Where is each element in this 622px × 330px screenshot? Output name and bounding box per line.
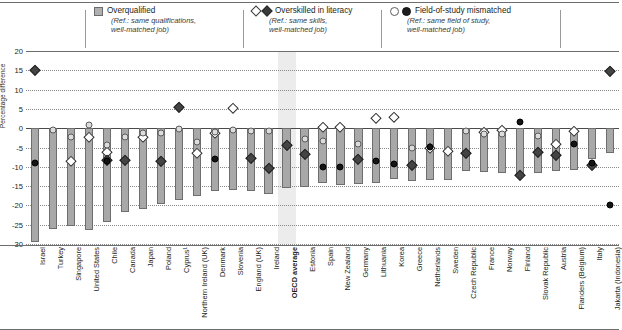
legend-item-overqualified[interactable]: Overqualified (Ref.: same qualifications… bbox=[94, 6, 196, 48]
legend-item-overskilled[interactable]: Overskilled in literacy (Ref.: same skil… bbox=[252, 6, 352, 48]
x-tick-label-korea: Korea bbox=[397, 247, 406, 267]
plot-area bbox=[26, 51, 619, 244]
marker-circle-open-poland bbox=[157, 130, 164, 137]
marker-circle-filled-chile bbox=[103, 158, 110, 165]
marker-circle-open-turkey bbox=[49, 127, 56, 134]
legend-marks-field-of-study bbox=[390, 6, 411, 16]
bar-ireland bbox=[264, 128, 272, 194]
marker-circle-filled-netherlands bbox=[427, 143, 434, 150]
y-tick-label: 20 bbox=[15, 47, 23, 56]
x-tick-label-ireland: Ireland bbox=[272, 247, 281, 270]
x-tick-label-slovenia: Slovenia bbox=[236, 247, 245, 275]
marker-circle-open-slovak-republic bbox=[535, 132, 542, 139]
legend-divider-2 bbox=[243, 10, 244, 48]
x-tick-label-oecd-average: OECD average bbox=[290, 247, 299, 298]
legend-divider-1 bbox=[85, 10, 86, 48]
marker-circle-open-france bbox=[481, 130, 488, 137]
x-tick-label-chile: Chile bbox=[110, 247, 119, 264]
bar-oecd-average bbox=[282, 128, 290, 187]
x-tick-label-denmark: Denmark bbox=[218, 247, 227, 277]
x-tick-label-spain: Spain bbox=[326, 247, 335, 266]
marker-circle-open-chile bbox=[103, 142, 110, 149]
marker-circle-filled-italy bbox=[589, 159, 596, 166]
y-tick-label: -20 bbox=[12, 201, 23, 210]
x-tick-label-estonia: Estonia bbox=[308, 247, 317, 272]
legend-ref2-field-of-study: well-matched job) bbox=[407, 25, 511, 34]
marker-circle-filled-flanders-belgium bbox=[571, 141, 578, 148]
x-tick-label-germany: Germany bbox=[361, 247, 370, 277]
circle-open-icon bbox=[390, 7, 399, 16]
y-tick-label: 0 bbox=[19, 124, 23, 133]
marker-circle-filled-korea bbox=[391, 161, 398, 168]
bar-singapore bbox=[67, 128, 75, 226]
marker-circle-open-cyprus bbox=[175, 125, 182, 132]
gridline bbox=[26, 90, 619, 91]
bar-israel bbox=[31, 128, 39, 242]
marker-circle-open-united-states bbox=[85, 121, 92, 128]
bar-greece bbox=[408, 128, 416, 181]
square-icon bbox=[94, 7, 103, 16]
bar-slovenia bbox=[229, 128, 237, 190]
y-tick-label: 10 bbox=[15, 85, 23, 94]
marker-circle-filled-lithuania bbox=[373, 158, 380, 165]
chart-legend: Overqualified (Ref.: same qualifications… bbox=[0, 6, 619, 48]
marker-circle-open-greece bbox=[409, 144, 416, 151]
marker-circle-open-england-uk bbox=[247, 128, 254, 135]
bar-spain bbox=[318, 128, 326, 183]
y-axis-title: Percentage difference bbox=[0, 63, 6, 128]
bar-netherlands bbox=[426, 128, 434, 180]
bar-new-zealand bbox=[336, 128, 344, 184]
marker-circle-filled-jakarta-indonesia bbox=[607, 202, 614, 209]
legend-divider-3 bbox=[381, 10, 382, 48]
x-tick-label-austria: Austria bbox=[559, 247, 568, 270]
bar-united-states bbox=[85, 128, 93, 230]
bar-jakarta-indonesia bbox=[606, 128, 614, 153]
circle-filled-icon bbox=[402, 7, 411, 16]
bar-italy bbox=[588, 128, 596, 158]
x-tick-label-japan: Japan bbox=[146, 247, 155, 267]
gridline bbox=[26, 186, 619, 187]
diamond-open-icon bbox=[250, 5, 261, 16]
x-tick-label-finland: Finland bbox=[523, 247, 532, 271]
legend-ref1-overskilled: (Ref.: same skills, bbox=[269, 16, 352, 25]
legend-item-field-of-study[interactable]: Field-of-study mismatched (Ref.: same fi… bbox=[390, 6, 511, 48]
top-divider bbox=[0, 2, 619, 3]
bar-finland bbox=[516, 128, 524, 174]
legend-ref1-field-of-study: (Ref.: same field of study, bbox=[407, 16, 511, 25]
gridline bbox=[26, 225, 619, 226]
bar-turkey bbox=[49, 128, 57, 229]
x-tick-label-israel: Israel bbox=[38, 247, 47, 265]
legend-ref2-overskilled: well-matched job) bbox=[269, 25, 352, 34]
x-tick-label-jakarta-indonesia: Jakarta (Indonesia) bbox=[613, 247, 622, 310]
x-tick-label-northern-ireland-uk: Northern Ireland (UK) bbox=[200, 247, 209, 318]
y-tick-label: -10 bbox=[12, 162, 23, 171]
y-tick-label: -30 bbox=[12, 240, 23, 249]
marker-circle-open-slovenia bbox=[229, 126, 236, 133]
x-tick-label-united-states: United States bbox=[92, 247, 101, 291]
x-tick-label-italy: Italy bbox=[595, 247, 604, 261]
x-tick-label-france: France bbox=[487, 247, 496, 270]
marker-circle-open-czech-republic bbox=[463, 127, 470, 134]
marker-circle-open-spain bbox=[319, 137, 326, 144]
plot-top-rule bbox=[26, 51, 619, 52]
legend-label-overskilled: Overskilled in literacy bbox=[275, 6, 352, 16]
x-tick-label-slovak-republic: Slovak Republic bbox=[541, 247, 550, 300]
x-axis-labels: IsraelTurkeySingaporeUnited StatesChileC… bbox=[26, 247, 619, 330]
gridline bbox=[26, 109, 619, 110]
marker-circle-filled-new-zealand bbox=[337, 163, 344, 170]
marker-circle-filled-denmark bbox=[211, 156, 218, 163]
x-tick-label-singapore: Singapore bbox=[74, 247, 83, 281]
gridline bbox=[26, 70, 619, 71]
x-tick-label-turkey: Turkey bbox=[56, 247, 65, 269]
y-tick-label: 5 bbox=[19, 104, 23, 113]
marker-circle-open-denmark bbox=[211, 129, 218, 136]
x-tick-label-czech-republic: Czech Republic bbox=[469, 247, 478, 299]
legend-ref1-overqualified: (Ref.: same qualifications, bbox=[111, 16, 196, 25]
marker-circle-open-germany bbox=[355, 141, 362, 148]
marker-circle-open-singapore bbox=[67, 134, 74, 141]
legend-ref2-overqualified: well-matched job) bbox=[111, 25, 196, 34]
bar-lithuania bbox=[372, 128, 380, 183]
y-tick-label: -5 bbox=[16, 143, 23, 152]
marker-circle-open-japan bbox=[139, 129, 146, 136]
